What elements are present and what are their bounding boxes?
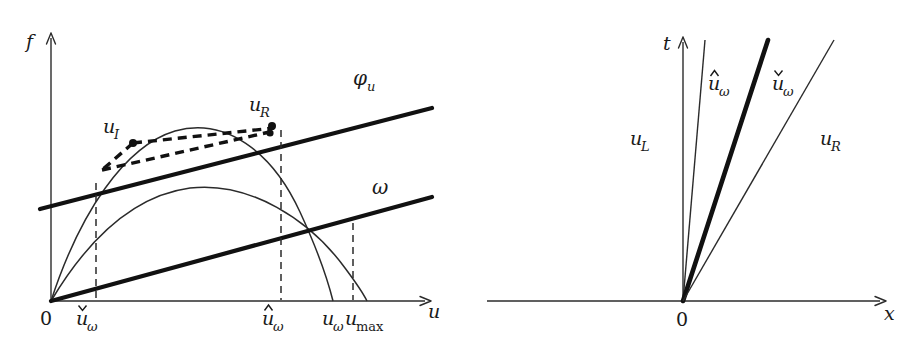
tick-label-caron-u-omega: u ω — [76, 306, 98, 335]
svg-text:φ: φ — [353, 66, 367, 90]
point-u-R-lower — [266, 129, 273, 136]
svg-text:max: max — [356, 319, 384, 334]
svg-text:ω: ω — [783, 84, 794, 99]
flux-curve-tall — [51, 128, 333, 301]
u-axis — [51, 297, 431, 306]
u-R-label-left: u R — [249, 93, 270, 120]
svg-text:u: u — [367, 79, 375, 94]
tick-label-u-omega: u ω — [322, 307, 344, 334]
f-axis-label: f — [24, 30, 36, 52]
region-label-u-L: u L — [630, 127, 650, 154]
region-label-hat-u-omega: u ω — [708, 71, 730, 100]
svg-text:I: I — [113, 127, 120, 142]
u-axis-label: u — [428, 300, 440, 322]
point-u-I — [129, 139, 137, 147]
omega-line — [51, 197, 432, 301]
figure-svg: f u 0 φ u ω u I u R — [0, 0, 911, 344]
svg-text:ω: ω — [372, 175, 388, 199]
phi-u-label: φ u — [353, 66, 375, 94]
region-label-u-R-right: u R — [820, 127, 841, 154]
omega-label: ω — [372, 175, 388, 199]
tick-label-hat-u-omega: u ω — [262, 305, 284, 334]
origin-label-right: 0 — [676, 308, 688, 330]
dashed-chord-lower-right — [102, 131, 274, 170]
svg-text:R: R — [830, 139, 841, 154]
x-axis — [487, 297, 886, 306]
f-axis — [47, 33, 56, 301]
region-label-caron-u-omega: u ω — [772, 71, 794, 100]
x-axis-label: x — [884, 302, 895, 324]
point-u-R — [268, 122, 276, 130]
flux-curve-low — [51, 187, 367, 301]
math-figure: f u 0 φ u ω u I u R — [0, 0, 911, 344]
ray-u-R — [683, 40, 834, 301]
characteristics-panel: t x 0 u L u ω u ω u R — [487, 32, 895, 330]
origin-label-left: 0 — [40, 307, 52, 329]
svg-text:R: R — [259, 105, 270, 120]
flux-panel: f u 0 φ u ω u I u R — [24, 30, 440, 334]
svg-text:ω: ω — [87, 319, 98, 334]
ray-caron-u-omega-shock — [683, 40, 768, 301]
tick-label-u-max: u max — [345, 307, 384, 334]
svg-text:L: L — [640, 139, 650, 154]
svg-text:ω: ω — [273, 319, 284, 334]
svg-text:ω: ω — [719, 84, 730, 99]
svg-text:ω: ω — [333, 319, 344, 334]
u-I-label: u I — [103, 115, 120, 142]
t-axis-label: t — [663, 32, 671, 54]
